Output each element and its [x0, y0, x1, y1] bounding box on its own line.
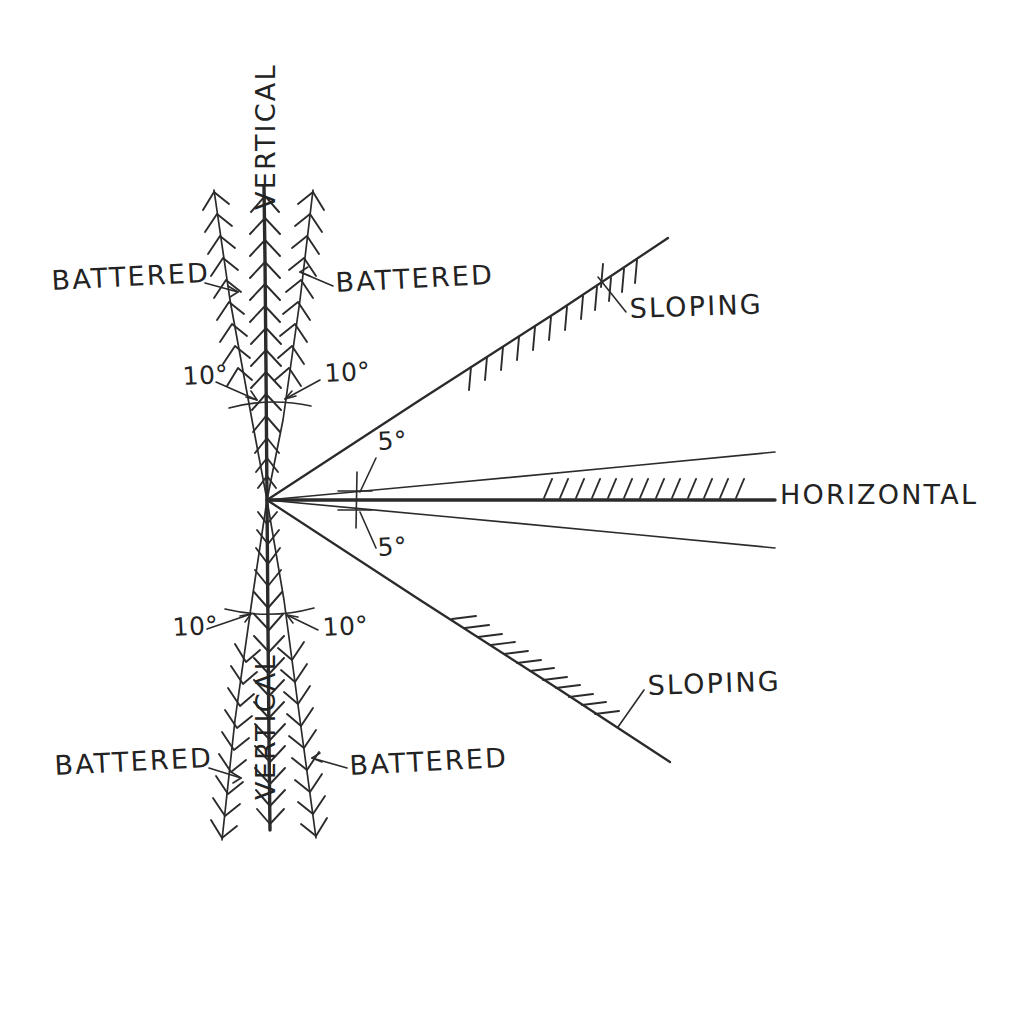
label-battered-top-right: BATTERED [335, 259, 495, 298]
angle-arc-batter-top [229, 402, 311, 408]
hatch-group [452, 260, 744, 714]
leader-five-deg-upper [360, 458, 376, 492]
label-ten-deg-bottom-left: 10° [172, 611, 219, 642]
label-ten-deg-top-right: 10° [324, 357, 371, 388]
slope-convention-diagram: BATTERED BATTERED BATTERED BATTERED VERT… [0, 0, 1010, 1011]
ray-horizontal-upper-5deg [267, 452, 775, 500]
label-five-deg-upper: 5° [377, 425, 408, 455]
barbs-battered-up-right [275, 192, 324, 386]
hatch-horizontal [544, 479, 744, 498]
leader-ten-deg-bottom-right [287, 615, 318, 630]
hatch-sloping-lower [452, 616, 619, 714]
label-group: BATTERED BATTERED BATTERED BATTERED VERT… [51, 63, 978, 800]
label-horizontal-right: HORIZONTAL [780, 479, 978, 510]
ray-horizontal-lower-5deg [267, 500, 775, 548]
label-sloping-upper: SLOPING [629, 288, 763, 324]
leader-sloping-lower [618, 690, 644, 727]
label-five-deg-lower: 5° [377, 531, 408, 561]
label-battered-bottom-left: BATTERED [54, 742, 214, 781]
label-vertical-top: VERTICAL [250, 63, 281, 210]
label-battered-bottom-right: BATTERED [349, 742, 509, 781]
label-ten-deg-top-left: 10° [182, 360, 229, 391]
leader-ten-deg-top-right [285, 380, 320, 399]
label-battered-top-left: BATTERED [51, 257, 211, 296]
label-sloping-lower: SLOPING [647, 665, 781, 701]
diagram-canvas: BATTERED BATTERED BATTERED BATTERED VERT… [0, 0, 1010, 1011]
label-ten-deg-bottom-right: 10° [322, 611, 369, 642]
leader-battered-bottom-left [209, 768, 241, 783]
leader-battered-bottom-right [312, 753, 347, 768]
label-vertical-bottom: VERTICAL [250, 653, 281, 800]
leader-five-deg-lower [360, 512, 376, 548]
ray-vertical-up [264, 186, 267, 500]
leader-sloping-upper [598, 277, 626, 312]
